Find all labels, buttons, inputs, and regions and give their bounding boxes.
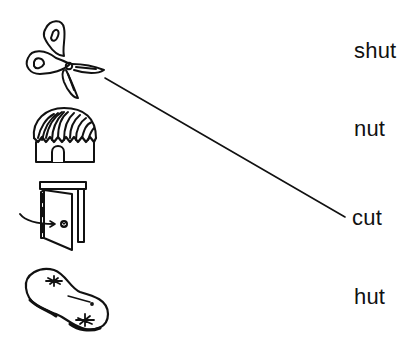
word-nut[interactable]: nut [354, 118, 385, 140]
picture-peanut[interactable] [20, 262, 112, 334]
door-icon [14, 180, 90, 252]
picture-hut[interactable] [30, 104, 100, 166]
word-cut[interactable]: cut [352, 207, 382, 229]
picture-scissors[interactable] [18, 12, 110, 100]
picture-door[interactable] [14, 180, 90, 252]
hut-icon [30, 104, 100, 166]
peanut-icon [20, 262, 112, 334]
scissors-icon [18, 12, 110, 100]
word-hut[interactable]: hut [354, 286, 385, 308]
matching-worksheet: shut nut cut hut [0, 0, 419, 350]
word-shut[interactable]: shut [354, 40, 396, 62]
